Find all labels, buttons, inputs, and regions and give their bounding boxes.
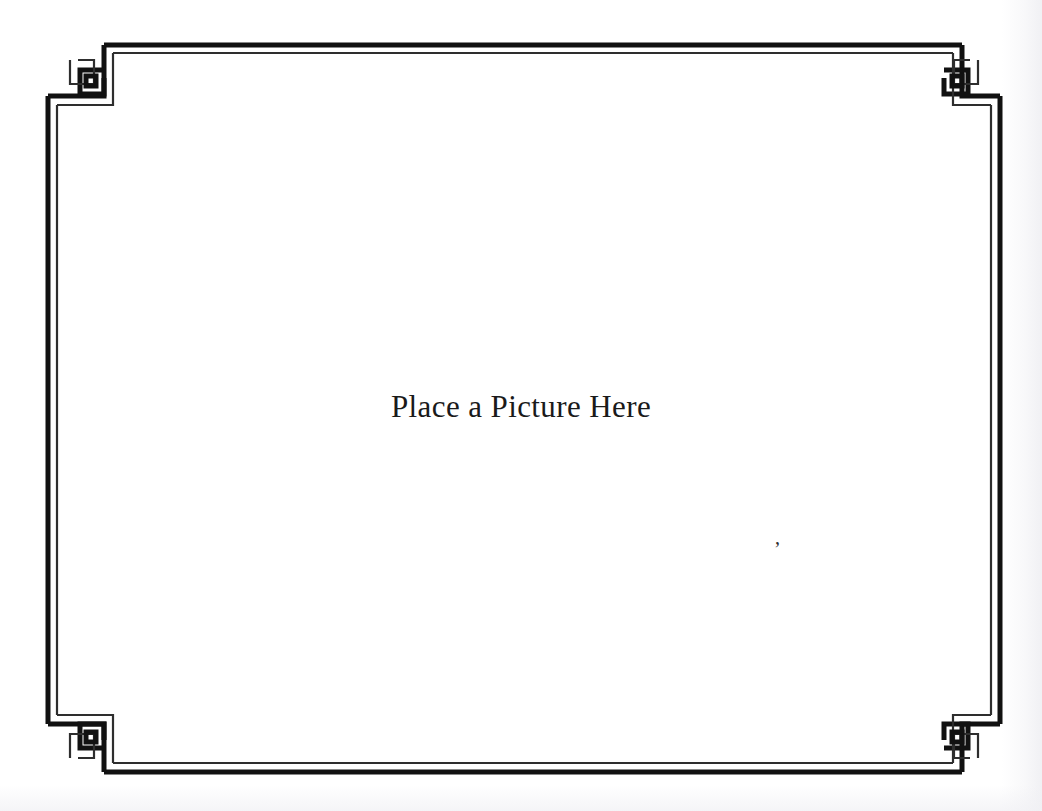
scan-artifact-speck: , [775,532,779,543]
spiral-center-br [952,732,962,742]
spiral-center-bl [86,732,96,742]
page-canvas: Place a Picture Here , [0,0,1042,811]
placeholder-caption: Place a Picture Here [0,387,1042,427]
spiral-center-tl [86,76,96,86]
spiral-center-tr [952,76,962,86]
